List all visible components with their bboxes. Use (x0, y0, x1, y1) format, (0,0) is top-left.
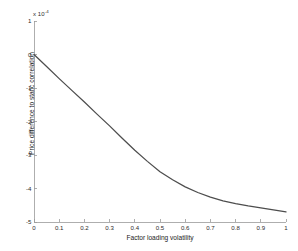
x-tick-label: 0.9 (257, 224, 266, 231)
data-series (34, 55, 286, 212)
y-tick-label: -4 (26, 185, 32, 192)
x-tick-label: 0.1 (55, 224, 64, 231)
x-tick-label: 0.5 (156, 224, 165, 231)
x-axis-label: Factor loading volatility (34, 234, 286, 241)
x-tick-label: 0.2 (80, 224, 89, 231)
y-tick-label: -5 (26, 218, 32, 225)
series-line (34, 55, 286, 212)
x-tick-label: 1 (284, 224, 288, 231)
axis-lines (34, 21, 286, 222)
x-tick-label: 0.4 (131, 224, 140, 231)
chart-axes: x 10-4 00.10.20.30.40.50.60.70.80.9110-1… (0, 0, 298, 251)
y-axis-label: Price difference to static correlation (28, 24, 35, 184)
x-tick-label: 0.6 (181, 224, 190, 231)
figure-canvas: x 10-4 00.10.20.30.40.50.60.70.80.9110-1… (0, 0, 298, 251)
x-tick-label: 0.8 (231, 224, 240, 231)
plot-svg: 00.10.20.30.40.50.60.70.80.9110-1-2-3-4-… (0, 0, 298, 251)
tick-labels: 00.10.20.30.40.50.60.70.80.9110-1-2-3-4-… (26, 17, 288, 231)
x-tick-label: 0.3 (105, 224, 114, 231)
x-tick-label: 0 (32, 224, 36, 231)
tick-marks (34, 21, 286, 222)
x-tick-label: 0.7 (206, 224, 215, 231)
